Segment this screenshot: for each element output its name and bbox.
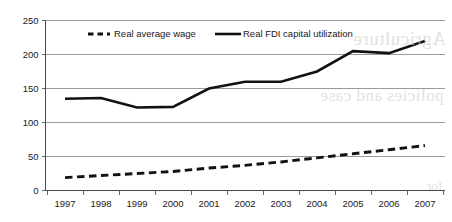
y-axis-tick-label: 150 xyxy=(23,83,39,94)
x-axis-tick-label: 2006 xyxy=(378,198,399,209)
x-axis-tick-labels: 1997199819992000200120022003200420052006… xyxy=(54,198,435,209)
legend-label: Real FDI capital utilization xyxy=(243,28,353,39)
x-axis-tick-label: 2002 xyxy=(234,198,255,209)
line-chart: Agriculture policies and case for 050100… xyxy=(0,0,452,222)
x-axis-tick-label: 1998 xyxy=(90,198,111,209)
x-axis-tick-label: 2004 xyxy=(306,198,327,209)
x-axis-tick-label: 2007 xyxy=(414,198,435,209)
gridline-group xyxy=(46,21,446,157)
y-axis-tick-label: 200 xyxy=(23,49,39,60)
x-axis-tick-label: 2003 xyxy=(270,198,291,209)
series-line-1 xyxy=(65,146,425,178)
chart-canvas: 050100150200250 199719981999200020012002… xyxy=(0,0,452,222)
x-axis-tick-label: 2005 xyxy=(342,198,363,209)
x-axis-tick-label: 2000 xyxy=(162,198,183,209)
tickmark-group xyxy=(42,21,444,195)
y-axis-tick-label: 100 xyxy=(23,117,39,128)
legend-label: Real average wage xyxy=(114,28,196,39)
x-axis-tick-label: 1999 xyxy=(126,198,147,209)
y-axis-tick-label: 250 xyxy=(23,15,39,26)
x-axis-tick-label: 2001 xyxy=(198,198,219,209)
y-axis-tick-label: 0 xyxy=(33,185,38,196)
y-axis-tick-labels: 050100150200250 xyxy=(23,15,39,196)
x-axis-tick-label: 1997 xyxy=(54,198,75,209)
y-axis-tick-label: 50 xyxy=(28,151,39,162)
series-layer xyxy=(65,41,425,178)
series-line-2 xyxy=(65,41,425,108)
chart-legend: Real average wageReal FDI capital utiliz… xyxy=(88,28,353,39)
